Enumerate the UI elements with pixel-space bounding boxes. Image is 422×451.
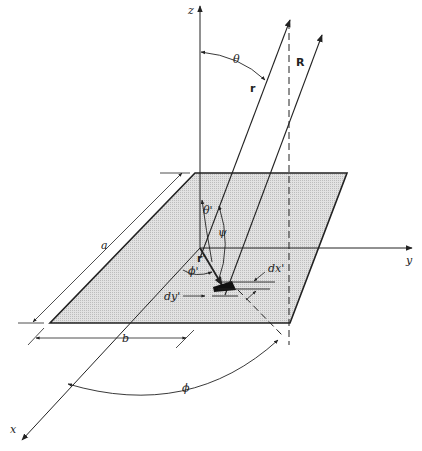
r-label: r [250, 82, 256, 95]
psi-label: ψ [218, 226, 227, 239]
dimension-a-label: a [101, 239, 108, 252]
theta-prime-label: θ' [203, 204, 213, 217]
dimension-b-label: b [122, 332, 129, 345]
phi-arc [68, 340, 278, 395]
dx-prime-label: dx' [268, 262, 284, 275]
phi-label: ϕ [182, 382, 190, 395]
aperture-geometry-diagram: z y x θ r R θ' ψ r' ϕ' dx' dy' a b ϕ [0, 0, 422, 451]
R-label: R [296, 56, 305, 69]
dimension-b-tick-left [28, 328, 44, 345]
dy-prime-label: dy' [164, 290, 180, 303]
theta-label: θ [233, 53, 240, 66]
z-axis-label: z [187, 4, 194, 17]
x-axis-label: x [10, 423, 17, 436]
r-prime-label: r' [197, 252, 206, 265]
y-axis-label: y [405, 254, 413, 267]
phi-prime-label: ϕ' [188, 265, 199, 278]
dimension-b-tick-right [176, 330, 194, 348]
